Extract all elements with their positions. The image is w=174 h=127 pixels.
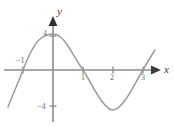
x-axis-arrow-icon: [151, 66, 161, 75]
y-axis-label: y: [56, 5, 62, 17]
graph-figure: y x −1 1 2 3 4 −4: [0, 0, 174, 127]
x-axis-label: x: [163, 63, 169, 75]
x-tick-label-neg1: −1: [16, 56, 25, 65]
y-axis-arrow-icon: [49, 16, 58, 26]
x-tick-label-2: 2: [110, 73, 114, 82]
x-tick-label-1: 1: [81, 73, 85, 82]
y-tick-label-neg4: −4: [37, 102, 46, 111]
x-tick-label-3: 3: [141, 73, 145, 82]
cubic-curve: [8, 34, 155, 110]
coordinate-plane: y x −1 1 2 3 4 −4: [0, 0, 174, 127]
y-tick-label-4: 4: [43, 29, 47, 38]
